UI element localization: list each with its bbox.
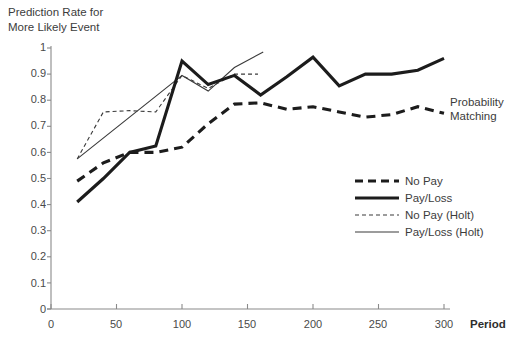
legend-swatch-thin-solid xyxy=(355,226,399,238)
chart-figure: Prediction Rate for More Likely Event 1 … xyxy=(0,0,519,345)
legend-label-pay-loss-holt: Pay/Loss (Holt) xyxy=(405,226,484,238)
legend-item-pay-loss-holt: Pay/Loss (Holt) xyxy=(355,223,515,240)
legend-item-pay-loss: Pay/Loss xyxy=(355,189,515,206)
legend-item-no-pay-holt: No Pay (Holt) xyxy=(355,206,515,223)
legend-label-no-pay: No Pay xyxy=(405,175,443,187)
chart-legend: No Pay Pay/Loss No Pay (Holt) Pay/Loss (… xyxy=(355,172,515,240)
legend-swatch-thick-dashed xyxy=(355,175,399,187)
legend-item-no-pay: No Pay xyxy=(355,172,515,189)
legend-label-pay-loss: Pay/Loss xyxy=(405,192,452,204)
legend-swatch-thin-dashed xyxy=(355,209,399,221)
legend-label-no-pay-holt: No Pay (Holt) xyxy=(405,209,474,221)
legend-swatch-thick-solid xyxy=(355,192,399,204)
